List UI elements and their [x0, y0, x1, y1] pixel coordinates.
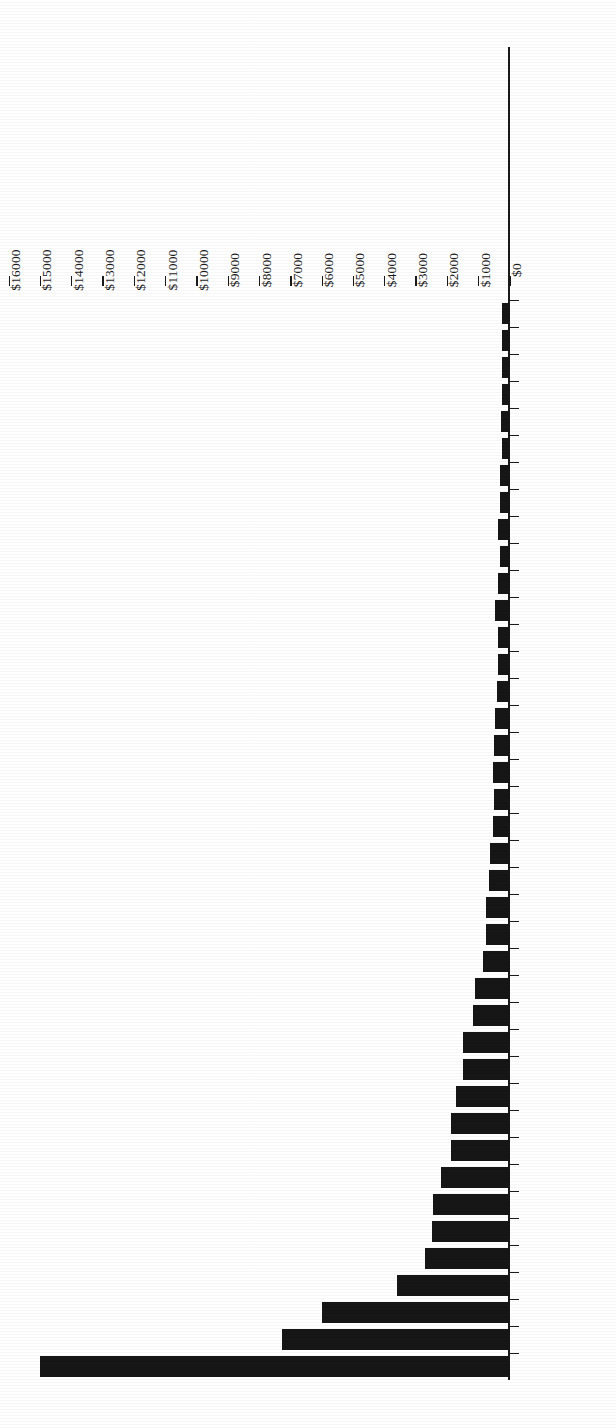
category-tick-mark — [510, 597, 519, 598]
bar — [490, 843, 510, 864]
bar — [502, 303, 510, 324]
bar — [451, 1140, 510, 1161]
bar — [502, 438, 510, 459]
bar — [282, 1329, 510, 1350]
category-tick-mark — [510, 948, 519, 949]
bar — [498, 519, 510, 540]
category-tick-mark — [510, 462, 519, 463]
category-tick-mark — [510, 894, 519, 895]
category-tick-mark — [510, 300, 519, 301]
bar — [486, 897, 510, 918]
rotated-figure: $16000$15000$14000$13000$12000$11000$100… — [0, 0, 616, 1428]
bar — [473, 1005, 510, 1026]
bar — [498, 573, 510, 594]
bar — [494, 735, 510, 756]
bar-chart: $16000$15000$14000$13000$12000$11000$100… — [0, 0, 616, 1428]
bar — [502, 357, 510, 378]
bar — [41, 1356, 511, 1377]
category-tick-mark — [510, 570, 519, 571]
category-tick-mark — [510, 624, 519, 625]
category-tick-mark — [510, 867, 519, 868]
bar — [502, 384, 510, 405]
category-tick-mark — [510, 1002, 519, 1003]
bar — [397, 1275, 510, 1296]
bar — [493, 816, 510, 837]
category-tick-mark — [510, 732, 519, 733]
category-tick-mark — [510, 1137, 519, 1138]
bar — [495, 600, 510, 621]
category-tick-mark — [510, 1245, 519, 1246]
bar — [463, 1059, 510, 1080]
category-tick-mark — [510, 1029, 519, 1030]
bar — [322, 1302, 510, 1323]
bar — [494, 789, 510, 810]
category-tick-mark — [510, 1110, 519, 1111]
bar — [500, 546, 510, 567]
bar — [433, 1194, 510, 1215]
category-tick-mark — [510, 543, 519, 544]
bar — [441, 1167, 510, 1188]
bar — [483, 951, 510, 972]
bar — [475, 978, 510, 999]
category-tick-mark — [510, 1299, 519, 1300]
category-tick-mark — [510, 489, 519, 490]
bar — [495, 708, 510, 729]
bar — [432, 1221, 510, 1242]
category-tick-mark — [510, 435, 519, 436]
bar — [463, 1032, 510, 1053]
bar — [501, 411, 510, 432]
category-tick-mark — [510, 354, 519, 355]
bar — [489, 870, 510, 891]
category-tick-mark — [510, 381, 519, 382]
bar — [486, 924, 510, 945]
category-tick-mark — [510, 1083, 519, 1084]
category-tick-mark — [510, 975, 519, 976]
category-tick-mark — [510, 813, 519, 814]
bar — [500, 465, 510, 486]
category-tick-mark — [510, 1191, 519, 1192]
category-tick-mark — [510, 705, 519, 706]
bar — [498, 627, 510, 648]
bars-layer: United StatesChinaJapanGermanyFranceBraz… — [0, 0, 616, 1428]
category-tick-mark — [510, 759, 519, 760]
category-tick-mark — [510, 516, 519, 517]
category-tick-mark — [510, 786, 519, 787]
category-tick-mark — [510, 408, 519, 409]
bar — [500, 492, 510, 513]
bar — [493, 762, 510, 783]
category-tick-mark — [510, 678, 519, 679]
bar — [451, 1113, 510, 1134]
bar — [498, 654, 510, 675]
bar — [456, 1086, 510, 1107]
bar — [497, 681, 510, 702]
category-tick-mark — [510, 651, 519, 652]
category-tick-mark — [510, 1218, 519, 1219]
category-tick-mark — [510, 921, 519, 922]
category-tick-mark — [510, 1326, 519, 1327]
category-tick-mark — [510, 1164, 519, 1165]
bar — [502, 330, 510, 351]
category-tick-mark — [510, 1056, 519, 1057]
category-tick-mark — [510, 327, 519, 328]
category-tick-mark — [510, 840, 519, 841]
category-tick-mark — [510, 1272, 519, 1273]
category-tick-mark — [510, 1353, 519, 1354]
bar — [426, 1248, 511, 1269]
